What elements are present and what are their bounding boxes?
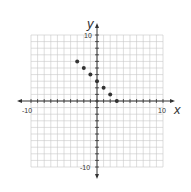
data-point	[102, 86, 106, 90]
data-point	[115, 99, 119, 103]
axes	[17, 23, 175, 179]
y-min-tick-label: -10	[80, 164, 90, 171]
x-max-tick-label: 10	[158, 107, 166, 114]
data-point	[75, 59, 79, 63]
x-axis-label: x	[173, 102, 181, 117]
data-point	[82, 66, 86, 70]
data-point	[108, 92, 112, 96]
y-max-tick-label: 10	[84, 32, 92, 39]
coordinate-plane: x y -10 10 10 -10	[0, 0, 191, 192]
x-min-tick-label: -10	[22, 107, 32, 114]
data-point	[88, 73, 92, 77]
y-axis-label: y	[86, 16, 95, 31]
data-point	[95, 79, 99, 83]
